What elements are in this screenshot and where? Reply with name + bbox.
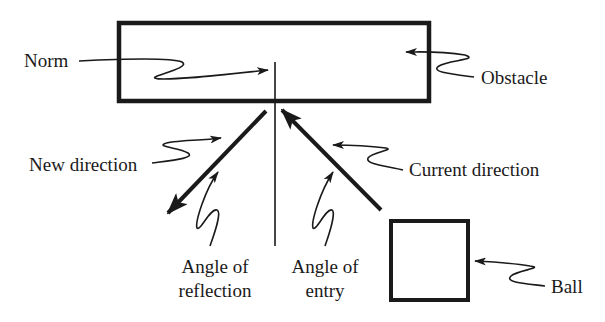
norm-label: Norm [24, 49, 68, 73]
new-direction-callout-icon [152, 138, 221, 163]
current-direction-callout-icon [333, 145, 403, 170]
ball-label: Ball [551, 275, 583, 299]
ball-rect [391, 221, 468, 300]
obstacle-callout-icon [406, 52, 474, 77]
angle-entry-callout-icon [313, 172, 334, 246]
reflection-diagram: Norm Obstacle New direction Current dire… [0, 0, 605, 322]
angle-entry-line1: Angle of [275, 255, 375, 279]
angle-reflection-line2: reflection [160, 279, 270, 303]
angle-reflection-callout-icon [197, 172, 219, 246]
obstacle-rect [119, 23, 429, 101]
angle-reflection-label: Angle of reflection [160, 255, 270, 303]
new-direction-label: New direction [29, 153, 137, 177]
angle-entry-line2: entry [275, 279, 375, 303]
current-direction-label: Current direction [409, 158, 539, 182]
new-direction-arrow [168, 111, 266, 213]
angle-entry-label: Angle of entry [275, 255, 375, 303]
ball-callout-icon [475, 261, 545, 286]
norm-callout-icon [79, 59, 268, 79]
current-direction-arrow [282, 110, 381, 210]
obstacle-label: Obstacle [481, 66, 547, 90]
angle-reflection-line1: Angle of [160, 255, 270, 279]
